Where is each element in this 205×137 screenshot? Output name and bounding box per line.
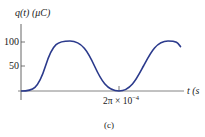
x-tick-label: 2π × 10−4 (103, 94, 140, 106)
y-tick-label-100: 100 (4, 36, 19, 47)
y-axis-label: q(t) (μC) (15, 7, 51, 19)
x-axis-label: t (s (187, 85, 200, 97)
y-tick-label-50: 50 (9, 60, 19, 71)
figure-caption: (c) (104, 120, 114, 130)
chart-figure: q(t) (μC) 100 50 2π × 10−4 t (s (c) (0, 0, 205, 137)
q-curve (21, 41, 181, 91)
